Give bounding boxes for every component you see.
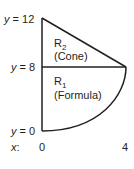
region-r2-desc: (Cone) <box>54 50 88 62</box>
label-y0: y = 0 <box>11 125 35 137</box>
y12-value: = 12 <box>10 13 35 25</box>
r1-name: R <box>54 75 62 87</box>
region-r1-desc: (Formula) <box>54 89 102 101</box>
region-diagram <box>0 0 134 169</box>
x-tick-0: 0 <box>39 141 45 153</box>
label-y8: y = 8 <box>11 61 35 73</box>
x-tick-4: 4 <box>122 141 128 153</box>
label-y12: y = 12 <box>4 13 34 25</box>
r2-name: R <box>54 37 62 49</box>
label-x-axis: x: <box>11 141 20 153</box>
x-sep: : <box>17 141 20 153</box>
y8-value: = 8 <box>17 61 36 73</box>
y0-value: = 0 <box>17 125 36 137</box>
